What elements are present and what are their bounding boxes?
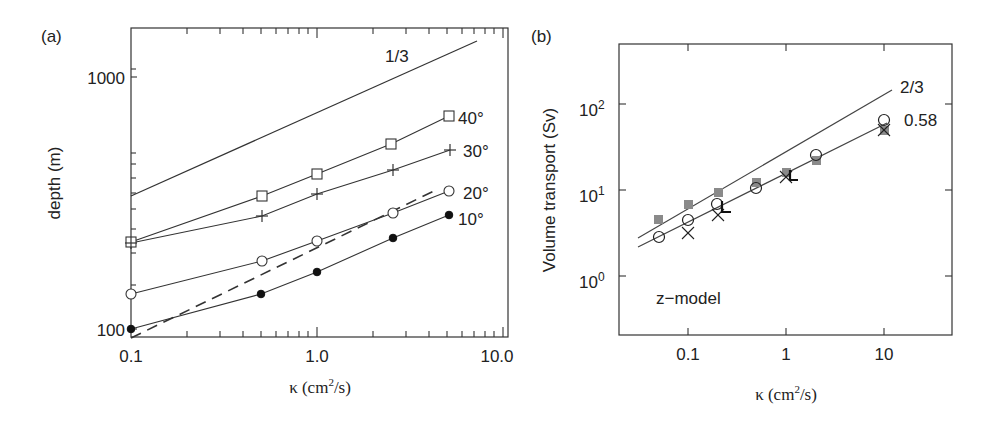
panel-b-ylabel: Volume transport (Sv)	[540, 108, 559, 272]
slope-two-thirds-line	[638, 90, 892, 238]
slope-0.58-label: 0.58	[904, 111, 937, 130]
panel-a-label: (a)	[41, 27, 62, 46]
series-label-10deg: 10°	[458, 210, 484, 229]
panel-b-y-ticks	[619, 104, 952, 276]
series-20deg-line	[131, 191, 449, 294]
panel-a-ytick-100: 100	[97, 321, 125, 340]
panel-a-xlabel: κ (cm2/s)	[289, 376, 351, 397]
z-model-label: z−model	[656, 289, 721, 308]
slope-one-third-line	[131, 41, 477, 196]
series-10deg-markers	[127, 211, 453, 333]
slope-two-thirds-label: 2/3	[900, 78, 924, 97]
series-label-40deg: 40°	[458, 109, 484, 128]
panel-a: (a)	[41, 27, 514, 397]
panel-b-ytick-1: 100	[579, 270, 605, 292]
panel-a-xtick-10.0: 10.0	[480, 347, 513, 366]
panel-a-ylabel: depth (m)	[45, 147, 64, 220]
panel-a-ytick-1000: 1000	[87, 69, 125, 88]
series-40deg-line	[131, 116, 449, 242]
panel-a-xtick-1.0: 1.0	[305, 347, 329, 366]
slope-0.58-line	[638, 123, 887, 247]
panel-b-xtick-10: 10	[875, 345, 894, 364]
panel-b-xtick-0.1: 0.1	[676, 345, 700, 364]
cross-markers	[682, 124, 890, 239]
series-30deg-markers	[125, 144, 456, 249]
gray-square-markers	[654, 126, 889, 224]
series-30deg-line	[131, 150, 450, 243]
panel-a-xtick-0.1: 0.1	[119, 347, 143, 366]
series-label-20deg: 20°	[463, 184, 489, 203]
panel-b-label: (b)	[531, 27, 552, 46]
panel-b-xlabel: κ (cm2/s)	[755, 383, 817, 404]
panel-b: (b) 0.1 1 10 102 101 100 κ (cm2/s) Volum…	[531, 27, 952, 404]
panel-a-x-ticks	[187, 28, 503, 337]
open-circle-markers	[654, 115, 890, 243]
series-10deg-line	[131, 215, 449, 329]
series-label-30deg: 30°	[463, 142, 489, 161]
panel-b-ytick-10: 101	[579, 184, 605, 206]
panel-a-frame	[131, 28, 508, 337]
panel-b-ytick-100: 102	[579, 98, 605, 120]
panel-b-xtick-1: 1	[781, 345, 790, 364]
slope-one-third-label: 1/3	[385, 47, 409, 66]
